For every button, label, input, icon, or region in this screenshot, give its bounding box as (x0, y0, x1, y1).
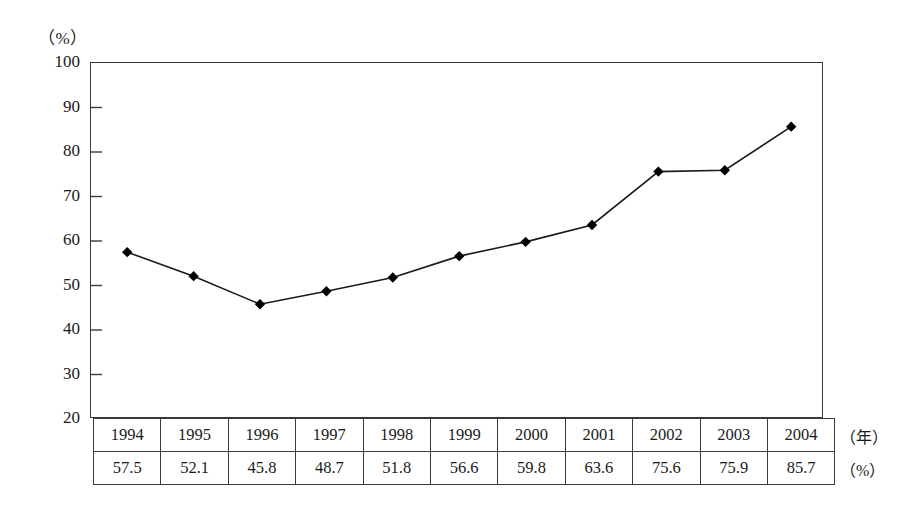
y-tick-label: 100 (34, 53, 80, 70)
data-point-marker (388, 272, 398, 282)
table-cell-value: 75.6 (633, 452, 700, 485)
table-cell-year: 1995 (161, 419, 228, 452)
table-row-unit-percent: （%） (840, 457, 885, 481)
line-series-svg (91, 63, 824, 419)
table-cell-year: 1994 (94, 419, 161, 452)
y-axis-unit-label: （%） (38, 24, 88, 49)
table-cell-value: 75.9 (700, 452, 767, 485)
table-row-unit-year: （年） (840, 424, 888, 448)
data-point-marker (720, 165, 730, 175)
y-tick-label: 30 (34, 365, 80, 382)
table-cell-value: 56.6 (430, 452, 497, 485)
table-cell-year: 1998 (363, 419, 430, 452)
data-point-marker (255, 299, 265, 309)
table-cell-year: 2003 (700, 419, 767, 452)
table-row-values: 57.552.145.848.751.856.659.863.675.675.9… (94, 452, 835, 485)
table-cell-value: 63.6 (565, 452, 632, 485)
table-cell-year: 2001 (565, 419, 632, 452)
table-cell-year: 1996 (228, 419, 295, 452)
table-cell-year: 2000 (498, 419, 565, 452)
data-point-marker (454, 251, 464, 261)
table-cell-year: 2004 (767, 419, 834, 452)
y-tick-label: 70 (34, 187, 80, 204)
table-row-years: 1994199519961997199819992000200120022003… (94, 419, 835, 452)
y-tick-label: 80 (34, 142, 80, 159)
plot-area (90, 62, 823, 418)
table-cell-value: 52.1 (161, 452, 228, 485)
table-cell-year: 1999 (430, 419, 497, 452)
data-table: 1994199519961997199819992000200120022003… (93, 418, 835, 485)
table-cell-value: 51.8 (363, 452, 430, 485)
chart-figure: （%） 1009080706050403020 1994199519961997… (0, 0, 919, 511)
data-point-marker (122, 247, 132, 257)
y-axis-tick-marks (91, 108, 102, 375)
y-tick-label: 60 (34, 231, 80, 248)
y-tick-label: 90 (34, 98, 80, 115)
table-cell-value: 59.8 (498, 452, 565, 485)
table-cell-value: 85.7 (767, 452, 834, 485)
data-point-marker (321, 286, 331, 296)
y-tick-label: 40 (34, 320, 80, 337)
data-point-marker (520, 237, 530, 247)
series-markers (122, 121, 796, 309)
y-tick-label: 20 (34, 409, 80, 426)
series-line (127, 127, 791, 305)
table-cell-value: 45.8 (228, 452, 295, 485)
table-cell-year: 2002 (633, 419, 700, 452)
data-point-marker (786, 121, 796, 131)
data-point-marker (188, 271, 198, 281)
table-cell-value: 48.7 (296, 452, 363, 485)
y-tick-label: 50 (34, 276, 80, 293)
table-cell-value: 57.5 (94, 452, 161, 485)
table-cell-year: 1997 (296, 419, 363, 452)
